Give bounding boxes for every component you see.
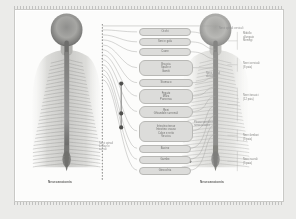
caption-left: Neuroanatomia bbox=[48, 180, 72, 184]
label-box-b5: Stomaco bbox=[139, 79, 193, 87]
label-box-b2: Seni e gola bbox=[139, 38, 191, 46]
label-box-b4: Braccia Spalle e Gomiti bbox=[139, 60, 193, 76]
label-box-b11: Ginocchia bbox=[139, 167, 191, 175]
junction-node-1 bbox=[119, 111, 123, 115]
screenshot-root: OcchiSeni e golaCuoreBraccia Spalle e Go… bbox=[0, 0, 296, 219]
side-label-4: Nervi sacrali (5 paia) bbox=[243, 158, 275, 165]
junction-node-2 bbox=[119, 125, 123, 129]
side-label-3: Nervi lombari (5 paia) bbox=[243, 134, 275, 141]
side-label-2: Nervi toracici (12 paia) bbox=[243, 94, 275, 101]
label-box-b8: Intestino tenue Intestino crasso Colon e… bbox=[139, 121, 193, 142]
label-box-b10: Gambe bbox=[139, 156, 191, 164]
annotation-lower-right: Plesso sacrale e nervo sciatico bbox=[194, 121, 230, 127]
side-label-0: Midollo allungato Meningi bbox=[243, 32, 275, 43]
side-label-1: Nervi cervicali (8 paia) bbox=[243, 62, 275, 69]
label-box-b9: Bacino bbox=[139, 145, 191, 153]
annotation-top-right: Nervi spinali cervicali bbox=[219, 27, 263, 30]
caption-right: Neuroanatomia bbox=[200, 180, 224, 184]
diagram-canvas: OcchiSeni e golaCuoreBraccia Spalle e Go… bbox=[15, 10, 283, 201]
annotation-mid-right: Nervi spinali dorsali bbox=[206, 72, 232, 78]
junction-node-0 bbox=[119, 82, 123, 86]
annotation-lower-left: Nervi spinali lombari e sacrali bbox=[99, 142, 123, 152]
label-box-b3: Cuore bbox=[139, 48, 191, 56]
label-box-b7: Reni Ghiandole surrenali bbox=[139, 106, 193, 118]
label-box-b6: Fegato Milza Pancreas bbox=[139, 89, 193, 104]
label-box-b1: Occhi bbox=[139, 28, 191, 36]
diagram-frame: OcchiSeni e golaCuoreBraccia Spalle e Go… bbox=[14, 9, 284, 202]
